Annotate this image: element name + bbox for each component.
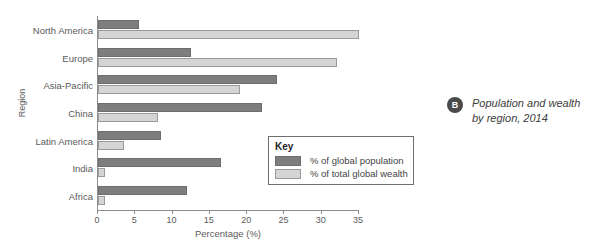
bar-population [98,48,191,57]
bar-population [98,20,139,29]
legend-label: % of total global wealth [310,168,408,179]
x-axis-line [97,210,359,211]
x-axis-tick [283,210,284,214]
caption-text: Population and wealth by region, 2014 [472,96,602,126]
x-axis-tick-label: 30 [306,215,336,225]
x-axis-tick [358,210,359,214]
x-axis-tick [97,210,98,214]
bar-population [98,131,161,140]
x-axis-tick-label: 10 [157,215,187,225]
category-label: Latin America [10,135,93,146]
legend-title: Key [275,141,407,152]
category-label: India [10,163,93,174]
category-label: Asia-Pacific [10,80,93,91]
bar-wealth [98,113,158,122]
chart-figure: Region North AmericaEuropeAsia-PacificCh… [0,0,610,249]
figure-caption: B Population and wealth by region, 2014 [447,96,602,126]
x-axis-tick [134,210,135,214]
category-label: Europe [10,52,93,63]
legend-label: % of global population [310,155,404,166]
bar-wealth [98,58,337,67]
legend-item: % of global population [275,155,407,166]
x-axis-tick-label: 0 [82,215,112,225]
category-label: North America [10,24,93,35]
x-axis-title: Percentage (%) [97,228,359,239]
x-axis-tick [246,210,247,214]
x-axis-tick-label: 25 [268,215,298,225]
legend-swatch [275,156,301,166]
cut-off-title [100,0,360,6]
x-axis-tick-label: 15 [194,215,224,225]
bar-wealth [98,85,240,94]
caption-badge-icon: B [447,97,463,113]
category-label: Africa [10,191,93,202]
bar-population [98,186,187,195]
x-axis-tick [209,210,210,214]
x-axis-tick [172,210,173,214]
legend-swatch [275,169,301,179]
legend-items: % of global population% of total global … [275,155,407,179]
bar-population [98,158,221,167]
bar-wealth [98,196,105,205]
category-label-group: North AmericaEuropeAsia-PacificChinaLati… [10,16,93,210]
bar-population [98,103,262,112]
bar-wealth [98,30,359,39]
x-axis-tick-label: 20 [231,215,261,225]
bar-wealth [98,141,124,150]
x-axis-tick-label: 5 [119,215,149,225]
caption-line-2: by region, 2014 [472,112,548,124]
bar-wealth [98,168,105,177]
bar-population [98,75,277,84]
x-axis-tick [321,210,322,214]
x-axis-tick-label: 35 [343,215,373,225]
legend-item: % of total global wealth [275,168,407,179]
category-label: China [10,108,93,119]
legend-box: Key % of global population% of total glo… [268,136,414,185]
caption-line-1: Population and wealth [472,97,580,109]
